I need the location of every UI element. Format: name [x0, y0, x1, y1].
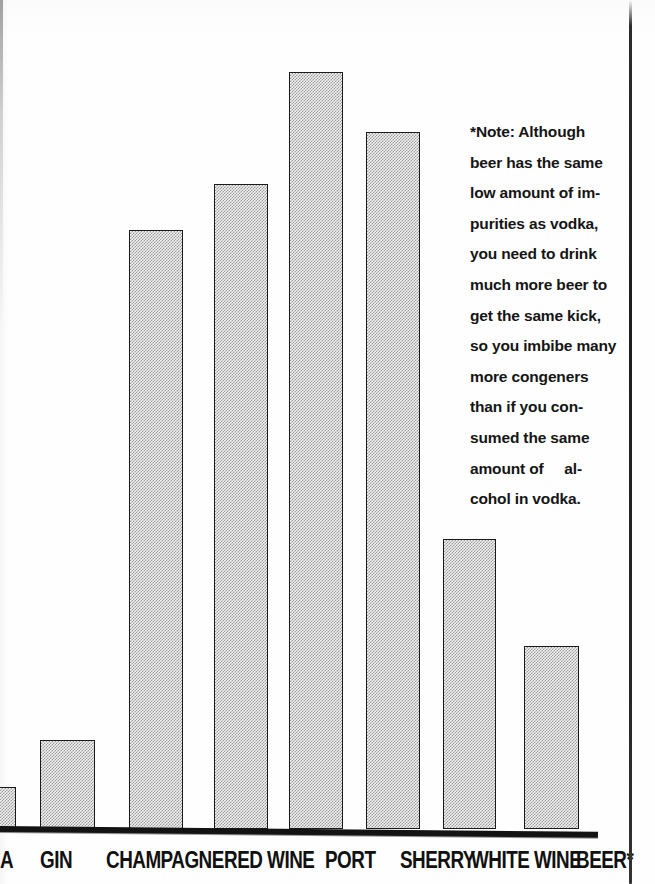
x-tick-label-white-wine: WHITE WINE [471, 845, 581, 875]
footnote-line: get the same kick, [470, 301, 620, 332]
x-axis-tick-labels: AGINCHAMPAGNERED WINEPORTSHERRYWHITE WIN… [0, 845, 612, 884]
footnote-line: you need to drink [470, 239, 620, 270]
footnote-line: *Note: Although [470, 117, 620, 148]
footnote-line: much more beer to [470, 270, 620, 301]
bar-gin [40, 740, 95, 829]
bar-champagne [129, 230, 183, 829]
footnote-line: low amount of im- [470, 178, 620, 209]
bar-port [289, 72, 343, 829]
footnote-line: purities as vodka, [470, 209, 620, 240]
x-tick-label-champagne: CHAMPAGNE [106, 845, 224, 875]
x-tick-label-port: PORT [325, 845, 375, 875]
x-tick-label-beer: BEER* [576, 845, 633, 875]
page-edge-rule [629, 0, 632, 884]
footnote-line: so you imbibe many [470, 331, 620, 362]
footnote-note-block: *Note: Althoughbeer has the samelow amou… [470, 117, 620, 515]
footnote-line: more congeners [470, 362, 620, 393]
x-tick-label-sherry: SHERRY [400, 845, 475, 875]
bar-red-wine [214, 184, 268, 829]
footnote-line: beer has the same [470, 148, 620, 179]
x-tick-label-vodka: A [0, 845, 13, 875]
footnote-line: amount of al- [470, 454, 620, 485]
footnote-line: cohol in vodka. [470, 484, 620, 515]
footnote-line: sumed the same [470, 423, 620, 454]
x-tick-label-gin: GIN [40, 845, 72, 875]
scanned-page: AGINCHAMPAGNERED WINEPORTSHERRYWHITE WIN… [0, 0, 655, 884]
bar-white-wine [443, 539, 496, 829]
bar-beer [524, 646, 579, 829]
bar-vodka [0, 787, 16, 829]
bar-sherry [366, 132, 420, 829]
footnote-line: than if you con- [470, 392, 620, 423]
x-tick-label-red-wine: RED WINE [224, 845, 314, 875]
